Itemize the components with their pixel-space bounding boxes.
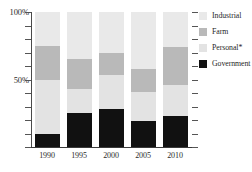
legend-item[interactable]: Government <box>199 56 252 72</box>
bar-segment-industrial[interactable] <box>163 12 188 47</box>
bar-segment-personal[interactable] <box>163 85 188 116</box>
y-tick-right <box>192 120 198 121</box>
y-tick-right <box>192 134 198 135</box>
bar-segment-government[interactable] <box>99 109 124 147</box>
legend-label: Government <box>212 60 250 68</box>
bar-segment-government[interactable] <box>163 116 188 147</box>
y-tick-left <box>25 147 31 148</box>
bar-segment-government[interactable] <box>131 121 156 147</box>
bar-group[interactable] <box>35 12 60 147</box>
y-tick-right <box>192 26 198 27</box>
plot-area <box>31 12 191 147</box>
bar-segment-personal[interactable] <box>67 89 92 113</box>
y-tick-right <box>192 39 198 40</box>
legend-item[interactable]: Industrial <box>199 8 252 24</box>
y-tick-right <box>192 80 198 81</box>
y-tick-right <box>192 93 198 94</box>
bar-segment-industrial[interactable] <box>99 12 124 53</box>
bar-segment-personal[interactable] <box>131 92 156 122</box>
legend-label: Personal* <box>212 44 242 52</box>
bar-segment-farm[interactable] <box>131 69 156 92</box>
bar-segment-farm[interactable] <box>67 59 92 89</box>
bar-segment-government[interactable] <box>35 134 60 148</box>
y-tick-right <box>192 147 198 148</box>
legend-swatch-icon <box>199 28 207 36</box>
x-axis-line <box>31 147 192 148</box>
bar-segment-personal[interactable] <box>99 75 124 109</box>
bar-group[interactable] <box>99 12 124 147</box>
bar-segment-industrial[interactable] <box>35 12 60 46</box>
bar-group[interactable] <box>163 12 188 147</box>
y-tick-right <box>192 53 198 54</box>
bar-segment-farm[interactable] <box>163 47 188 85</box>
bar-segment-industrial[interactable] <box>67 12 92 59</box>
bar-group[interactable] <box>67 12 92 147</box>
y-tick-right <box>192 66 198 67</box>
bar-segment-farm[interactable] <box>35 46 60 80</box>
bar-segment-personal[interactable] <box>35 80 60 134</box>
bar-group[interactable] <box>131 12 156 147</box>
chart-legend: IndustrialFarmPersonal*Government <box>199 8 252 72</box>
bar-segment-farm[interactable] <box>99 53 124 76</box>
legend-item[interactable]: Farm <box>199 24 252 40</box>
legend-swatch-icon <box>199 60 207 68</box>
legend-item[interactable]: Personal* <box>199 40 252 56</box>
bar-segment-industrial[interactable] <box>131 12 156 69</box>
bar-segment-government[interactable] <box>67 113 92 147</box>
legend-label: Farm <box>212 28 228 36</box>
legend-label: Industrial <box>212 12 241 20</box>
x-axis-label: 2010 <box>155 152 195 160</box>
y-tick-right <box>192 12 198 13</box>
legend-swatch-icon <box>199 44 207 52</box>
legend-swatch-icon <box>199 12 207 20</box>
y-tick-right <box>192 107 198 108</box>
stacked-bar-chart: 100%50% 19901995200020052010 IndustrialF… <box>0 0 252 172</box>
